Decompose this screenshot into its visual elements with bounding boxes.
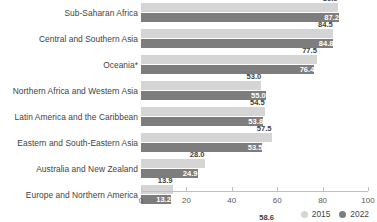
category-label: Latin America and the Caribbean bbox=[14, 104, 138, 130]
bar-value-label: 86.6 bbox=[318, 0, 338, 3]
bar-value-label: 28.0 bbox=[185, 150, 205, 159]
legend-swatch-icon bbox=[301, 211, 308, 218]
x-axis-tick bbox=[368, 187, 369, 191]
category-label: Central and Southern Asia bbox=[39, 26, 138, 52]
bar-group: 58.658.0 bbox=[141, 219, 368, 222]
bar-2015 bbox=[141, 55, 317, 64]
x-axis-tick-label: 20 bbox=[182, 196, 191, 205]
chart-row: Oceania*77.576.4 bbox=[0, 52, 377, 78]
bar-group: 57.553.5 bbox=[141, 130, 368, 156]
bar-value-label: 53.5 bbox=[242, 143, 264, 152]
x-axis: 020406080100 bbox=[141, 191, 368, 192]
x-axis-tick bbox=[186, 187, 187, 191]
chart-rows: Sub-Saharan Africa86.687.2Central and So… bbox=[0, 0, 377, 222]
bar-2015 bbox=[141, 3, 338, 12]
legend-label: 2022 bbox=[350, 209, 369, 219]
bar-2015 bbox=[141, 159, 205, 168]
bar-value-label: 57.5 bbox=[252, 124, 272, 133]
bar-2015 bbox=[141, 185, 173, 194]
bar-value-label: 13.9 bbox=[153, 176, 173, 185]
bar-group: 13.913.2 bbox=[141, 182, 368, 208]
bar-2015 bbox=[141, 107, 265, 116]
bar-value-label: 53.0 bbox=[241, 72, 261, 81]
bar-group: 86.687.2 bbox=[141, 0, 368, 26]
bar-2015 bbox=[141, 29, 333, 38]
x-axis-tick-label: 100 bbox=[361, 196, 374, 205]
bar-group: 28.024.9 bbox=[141, 156, 368, 182]
category-label: World bbox=[116, 219, 138, 222]
bar-2022 bbox=[141, 65, 314, 74]
x-axis-tick-label: 60 bbox=[273, 196, 282, 205]
category-label: Australia and New Zealand bbox=[36, 156, 138, 182]
x-axis-tick-label: 0 bbox=[139, 196, 143, 205]
chart-row: Latin America and the Caribbean54.553.8 bbox=[0, 104, 377, 130]
bar-2015 bbox=[141, 133, 272, 142]
x-axis-tick bbox=[277, 187, 278, 191]
x-axis-tick-label: 40 bbox=[227, 196, 236, 205]
x-axis-tick bbox=[232, 187, 233, 191]
bar-group: 84.584.8 bbox=[141, 26, 368, 52]
x-axis-tick bbox=[141, 187, 142, 191]
bar-value-label: 76.4 bbox=[294, 65, 316, 74]
x-axis-tick-label: 80 bbox=[318, 196, 327, 205]
bar-value-label: 58.6 bbox=[254, 213, 274, 222]
category-label: Oceania* bbox=[103, 52, 138, 78]
legend-label: 2015 bbox=[312, 209, 331, 219]
category-label: Sub-Saharan Africa bbox=[64, 0, 138, 26]
bar-chart: Sub-Saharan Africa86.687.2Central and So… bbox=[0, 0, 377, 222]
chart-row: World58.658.0 bbox=[0, 219, 377, 222]
category-label: Northern Africa and Western Asia bbox=[13, 78, 138, 104]
category-label: Europe and Northern America bbox=[26, 182, 138, 208]
bar-value-label: 84.5 bbox=[313, 20, 333, 29]
chart-legend: 20152022 bbox=[301, 209, 369, 219]
x-axis-tick bbox=[323, 187, 324, 191]
chart-row: Australia and New Zealand28.024.9 bbox=[0, 156, 377, 182]
category-label: Eastern and South-Eastern Asia bbox=[17, 130, 138, 156]
chart-row: Central and Southern Asia84.584.8 bbox=[0, 26, 377, 52]
bar-value-label: 24.9 bbox=[178, 169, 200, 178]
bar-2015 bbox=[141, 81, 261, 90]
bar-2022 bbox=[141, 13, 339, 22]
bar-value-label: 54.5 bbox=[245, 98, 265, 107]
bar-value-label: 77.5 bbox=[297, 46, 317, 55]
legend-item-2015[interactable]: 2015 bbox=[301, 209, 331, 219]
bar-value-label: 13.2 bbox=[151, 195, 173, 204]
chart-row: Northern Africa and Western Asia53.055.0 bbox=[0, 78, 377, 104]
legend-item-2022[interactable]: 2022 bbox=[339, 209, 369, 219]
legend-swatch-icon bbox=[339, 211, 346, 218]
